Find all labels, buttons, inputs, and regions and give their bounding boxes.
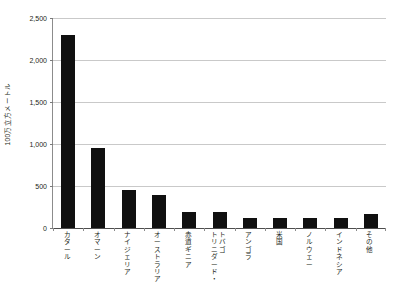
x-axis-category-label: トリニダード・トバゴ <box>211 231 226 283</box>
x-axis-category-label: カタール <box>63 231 71 261</box>
x-axis-category-labels: カタールオマーンナイジェリアオーストラリア赤道ギニアトリニダード・トバゴアンゴラ… <box>52 231 385 296</box>
x-axis-category-label: インドネシア <box>336 231 344 275</box>
bar <box>61 35 75 228</box>
bar <box>243 218 257 228</box>
bar <box>213 212 227 228</box>
bar <box>273 218 287 228</box>
bar <box>303 218 317 228</box>
bar <box>334 218 348 228</box>
y-axis-tick-label: 500 <box>35 183 47 190</box>
x-axis-category-label: その他 <box>366 231 374 253</box>
x-axis-category-label: オマーン <box>94 231 102 261</box>
y-axis-tick-label: 1,500 <box>29 99 47 106</box>
x-axis-category-label: ナイジェリア <box>124 231 132 275</box>
bar <box>91 148 105 228</box>
y-axis-tick-label: 1,000 <box>29 141 47 148</box>
gridline <box>53 228 386 229</box>
y-axis-tick-label: 2,000 <box>29 57 47 64</box>
y-axis-tick-labels: 2,5002,0001,5001,0005000 <box>14 0 50 236</box>
x-axis-tickmark <box>385 228 386 231</box>
x-axis-category-label: オーストラリア <box>154 231 162 283</box>
x-axis-category-label: 米国 <box>275 231 283 246</box>
bar <box>364 214 378 228</box>
y-axis-title-text: 100万立方メートル <box>2 83 12 146</box>
bar <box>182 212 196 228</box>
y-axis-tick-label: 2,500 <box>29 15 47 22</box>
y-axis-title: 100万立方メートル <box>0 0 14 228</box>
x-axis-category-label: アンゴラ <box>245 231 253 261</box>
bar <box>122 190 136 228</box>
x-axis-category-label: ノルウェー <box>306 231 314 268</box>
plot-area <box>52 18 386 229</box>
x-axis-category-label: 赤道ギニア <box>184 231 192 268</box>
y-axis-tick-label: 0 <box>43 225 47 232</box>
bars-layer <box>53 18 386 228</box>
bar <box>152 195 166 228</box>
bar-chart: 100万立方メートル 2,5002,0001,5001,0005000 カタール… <box>0 0 397 296</box>
